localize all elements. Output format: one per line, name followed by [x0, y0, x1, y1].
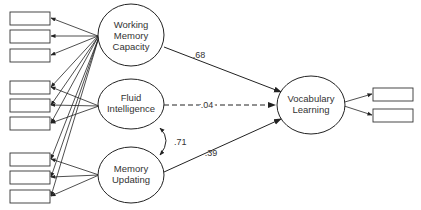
indicator-box-5 [10, 99, 50, 112]
coefficients: .68 .04 .39 .71 [174, 50, 217, 158]
latent-fi-line2: Intelligence [107, 103, 155, 114]
coef-fi-mu: .71 [174, 137, 187, 147]
indicator-box-vl-2 [373, 109, 413, 122]
left-indicators [10, 12, 50, 203]
correlation-fi-mu [160, 128, 166, 155]
path-wmc-vl [164, 47, 281, 92]
indicator-box-3 [10, 49, 50, 62]
latent-vl: Vocabulary Learning [277, 76, 345, 134]
latent-wmc: Working Memory Capacity [98, 4, 164, 66]
latent-fi-line1: Fluid [121, 92, 142, 103]
latent-vl-line2: Learning [293, 104, 330, 115]
indicator-box-9 [10, 190, 50, 203]
indicator-box-4 [10, 81, 50, 94]
coef-mu-vl: .39 [205, 148, 218, 158]
indicator-box-7 [10, 153, 50, 166]
coef-fi-vl: .04 [201, 100, 214, 110]
indicator-box-2 [10, 30, 50, 43]
latent-fi: Fluid Intelligence [98, 79, 164, 129]
latent-wmc-line2: Memory [114, 30, 149, 41]
indicator-box-vl-1 [373, 88, 413, 101]
structural-paths [160, 47, 281, 172]
sem-diagram: .68 .04 .39 .71 Working Memory Capacity … [0, 0, 421, 210]
latent-vl-line1: Vocabulary [287, 93, 334, 104]
latent-mu-line2: Updating [112, 174, 150, 185]
indicator-box-8 [10, 171, 50, 184]
latent-wmc-line1: Working [114, 19, 149, 30]
mu-loadings [51, 159, 99, 196]
wmc-loadings [51, 18, 99, 196]
latent-mu-line1: Memory [114, 163, 149, 174]
right-indicators [373, 88, 413, 122]
latent-mu: Memory Updating [98, 147, 164, 203]
coef-wmc-vl: .68 [193, 50, 206, 60]
latent-wmc-line3: Capacity [113, 41, 150, 52]
indicator-box-1 [10, 12, 50, 25]
indicator-box-6 [10, 117, 50, 130]
